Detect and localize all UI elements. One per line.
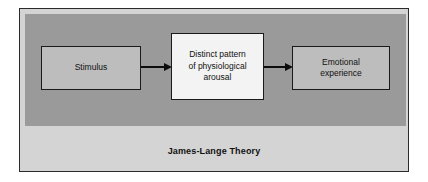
node-physiological-arousal-label: Distinct pattern of physiological arousa… (184, 49, 250, 84)
arrow-stimulus-to-arousal (141, 63, 172, 72)
caption-band: James-Lange Theory (20, 126, 408, 171)
node-physiological-arousal: Distinct pattern of physiological arousa… (171, 33, 264, 100)
arrow-arousal-to-emotion (264, 63, 293, 72)
figure-canvas: James-Lange Theory Stimulus Distinct pat… (0, 0, 428, 182)
node-emotional-experience-label: Emotional experience (316, 57, 366, 80)
diagram-frame: James-Lange Theory Stimulus Distinct pat… (19, 8, 409, 172)
node-emotional-experience: Emotional experience (292, 46, 390, 90)
arrow-shaft (141, 66, 165, 68)
diagram-caption: James-Lange Theory (20, 146, 408, 156)
node-stimulus: Stimulus (41, 46, 141, 90)
diagram-panel: Stimulus Distinct pattern of physiologic… (25, 14, 406, 126)
node-stimulus-label: Stimulus (71, 62, 112, 74)
arrow-shaft (264, 66, 286, 68)
